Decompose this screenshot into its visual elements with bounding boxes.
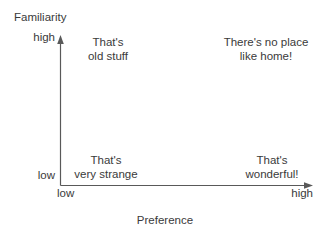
quadrant-label-line-2: wonderful! xyxy=(228,167,316,181)
quadrant-label-line-1: That's xyxy=(66,35,150,49)
x-axis-tick-high: high xyxy=(0,187,313,200)
quadrant-label-line-2: like home! xyxy=(214,49,318,63)
y-axis-tick-high: high xyxy=(0,31,55,44)
quadrant-label-top-left: That's old stuff xyxy=(66,35,150,63)
quadrant-diagram: Familiarity Preference high low low high… xyxy=(0,0,330,236)
x-axis-title: Preference xyxy=(0,214,330,227)
quadrant-label-line-2: very strange xyxy=(62,167,150,181)
y-axis-tick-low: low xyxy=(0,169,55,182)
quadrant-label-line-2: old stuff xyxy=(66,49,150,63)
quadrant-label-bottom-left: That's very strange xyxy=(62,153,150,181)
y-axis-arrowhead xyxy=(57,35,64,44)
quadrant-label-top-right: There's no place like home! xyxy=(214,35,318,63)
quadrant-label-line-1: That's xyxy=(62,153,150,167)
quadrant-label-line-1: That's xyxy=(228,153,316,167)
y-axis-title: Familiarity xyxy=(14,11,66,24)
quadrant-label-line-1: There's no place xyxy=(214,35,318,49)
quadrant-label-bottom-right: That's wonderful! xyxy=(228,153,316,181)
